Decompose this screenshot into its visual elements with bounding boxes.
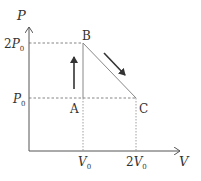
y-tick-2p0: 2P0 <box>4 37 24 53</box>
x-axis-label: V <box>179 154 190 169</box>
x-tick-2v0: 2V0 <box>126 155 147 171</box>
pv-diagram: P V 2P0 P0 V0 2V0 A B C <box>0 0 201 181</box>
arrow-down-right-icon <box>104 53 125 75</box>
y-axis-label: P <box>16 8 26 23</box>
process-bc <box>83 43 136 98</box>
y-tick-p0: P0 <box>12 92 26 108</box>
point-a-label: A <box>69 102 79 116</box>
x-tick-v0: V0 <box>78 155 91 171</box>
point-b-label: B <box>82 29 91 43</box>
point-c-label: C <box>139 102 148 116</box>
